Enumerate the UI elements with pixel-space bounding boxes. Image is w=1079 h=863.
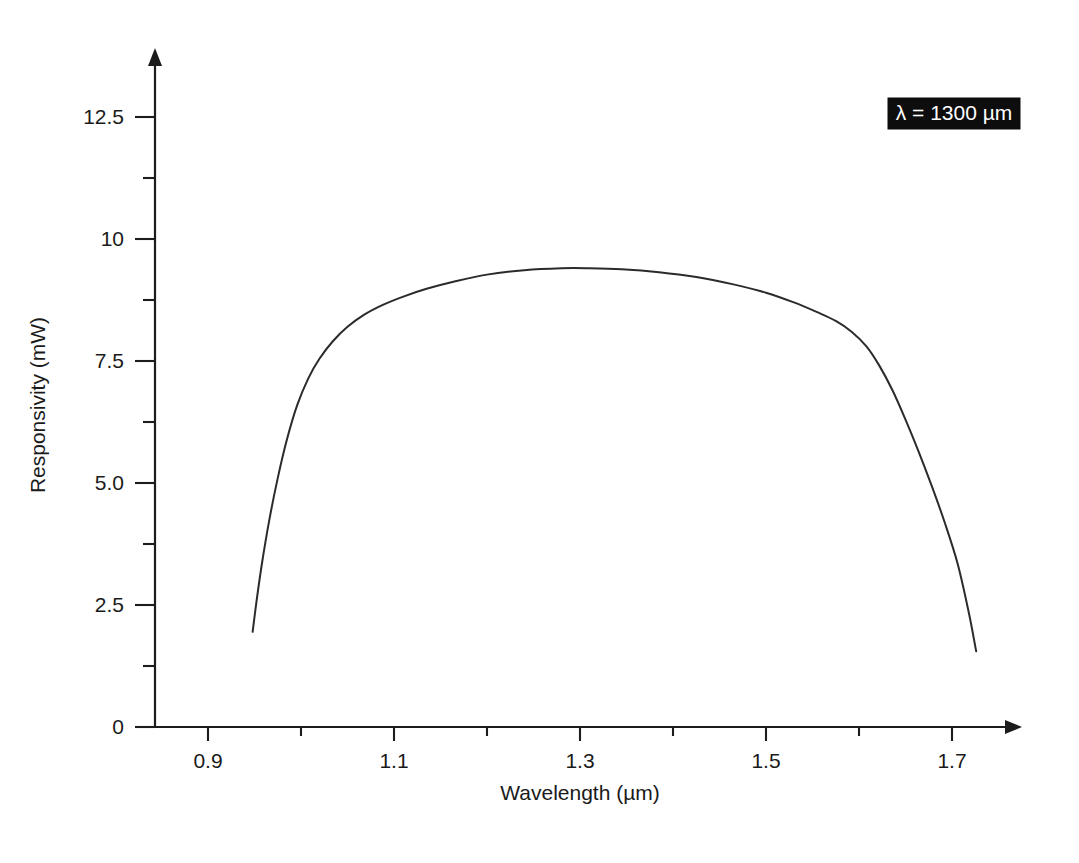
x-tick-label-3: 1.5 (751, 749, 780, 772)
x-axis-ticks (208, 727, 952, 741)
y-tick-label-5: 12.5 (83, 105, 124, 128)
y-tick-label-0: 0 (112, 715, 124, 738)
y-tick-label-2: 5.0 (95, 471, 124, 494)
axes-group (135, 48, 1022, 734)
y-tick-label-4: 10 (101, 227, 124, 250)
y-axis-title: Responsivity (mW) (26, 317, 49, 493)
y-axis-arrow-icon (148, 48, 162, 66)
y-axis-ticks (135, 117, 155, 727)
wavelength-label-text: λ = 1300 µm (896, 101, 1013, 124)
x-tick-label-0: 0.9 (193, 749, 222, 772)
y-axis-tick-labels: 02.55.07.51012.5 (83, 105, 124, 738)
x-tick-label-1: 1.1 (379, 749, 408, 772)
annotation-group: λ = 1300 µm (888, 98, 1020, 129)
x-axis-tick-labels: 0.91.11.31.51.7 (193, 749, 966, 772)
y-tick-label-1: 2.5 (95, 593, 124, 616)
chart-figure: 0.91.11.31.51.7 02.55.07.51012.5 Wavelen… (0, 0, 1079, 863)
x-tick-label-2: 1.3 (565, 749, 594, 772)
x-tick-label-4: 1.7 (937, 749, 966, 772)
x-axis-title: Wavelength (µm) (500, 781, 660, 804)
responsivity-curve (253, 268, 977, 651)
responsivity-vs-wavelength-chart: 0.91.11.31.51.7 02.55.07.51012.5 Wavelen… (0, 0, 1079, 863)
x-axis-arrow-icon (1005, 720, 1022, 734)
y-tick-label-3: 7.5 (95, 349, 124, 372)
